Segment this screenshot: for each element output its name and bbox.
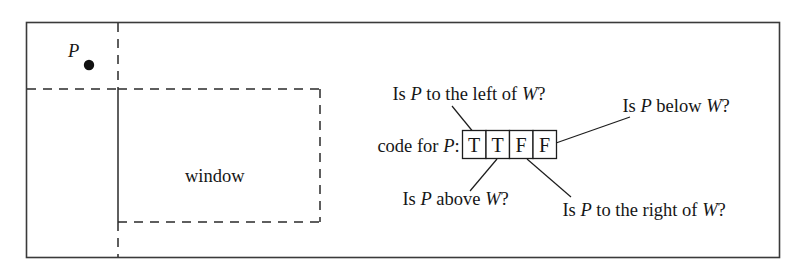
leader-line-right-of: [527, 159, 571, 197]
code-cell-value-2: F: [515, 134, 526, 156]
annotation-left-of-part-b: P: [409, 84, 421, 104]
figure-canvas: P window Is P to the left of W? Is P bel…: [0, 0, 802, 273]
annotation-below-part-a: Is: [622, 96, 640, 116]
annotation-above: Is P above W?: [370, 189, 532, 209]
point-p-dot: [84, 60, 94, 70]
annotation-below-part-e: ?: [722, 96, 730, 116]
annotation-above-part-c: above: [432, 189, 485, 209]
annotation-right-of-part-c: to the right of: [592, 200, 702, 220]
leader-line-above: [470, 159, 497, 191]
code-label-p: P: [442, 136, 454, 156]
annotation-above-part-e: ?: [501, 189, 509, 209]
code-cell-value-0: T: [468, 134, 480, 156]
code-cell-group: T T F F: [463, 131, 557, 159]
annotation-below-part-b: P: [639, 96, 651, 116]
code-label-prefix: code for: [377, 136, 443, 156]
annotation-left-of: Is P to the left of W?: [360, 84, 569, 104]
annotation-above-part-a: Is: [402, 189, 420, 209]
window-label: window: [185, 166, 245, 186]
code-cell-value-1: T: [491, 134, 503, 156]
annotation-left-of-part-c: to the left of: [422, 84, 522, 104]
annotation-above-part-b: P: [419, 189, 431, 209]
annotation-left-of-part-a: Is: [392, 84, 410, 104]
annotation-below: Is P below W?: [590, 96, 753, 116]
leader-line-left-of: [452, 106, 474, 133]
code-label-colon: :: [454, 136, 459, 156]
annotation-left-of-part-e: ?: [537, 84, 545, 104]
annotation-below-part-c: below: [652, 96, 706, 116]
annotation-right-of-part-a: Is: [562, 200, 580, 220]
annotation-right-of: Is P to the right of W?: [530, 200, 749, 220]
leader-line-below: [556, 117, 630, 143]
figure-root: P window Is P to the left of W? Is P bel…: [0, 0, 802, 273]
annotation-right-of-part-e: ?: [718, 200, 726, 220]
point-p-label: P: [67, 41, 79, 61]
code-cell-value-3: F: [539, 134, 550, 156]
annotation-right-of-part-b: P: [579, 200, 591, 220]
